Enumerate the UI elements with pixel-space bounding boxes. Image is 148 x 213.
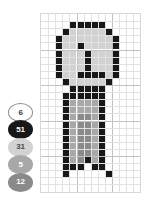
legend-color-chip[interactable]: 31 (8, 138, 33, 157)
grid-cell[interactable] (69, 121, 76, 128)
grid-cell[interactable] (91, 99, 98, 106)
grid-cell[interactable] (62, 128, 69, 135)
grid-cell[interactable] (62, 42, 69, 49)
grid-cell[interactable] (69, 142, 76, 149)
grid-cell[interactable] (62, 156, 69, 163)
grid-cell[interactable] (105, 170, 112, 177)
grid-cell[interactable] (91, 121, 98, 128)
grid-cell[interactable] (77, 50, 84, 57)
grid-cell[interactable] (84, 71, 91, 78)
grid-cell[interactable] (91, 92, 98, 99)
legend-item[interactable]: 6 (6, 103, 36, 120)
grid-cell[interactable] (91, 142, 98, 149)
grid-cell[interactable] (84, 64, 91, 71)
grid-cell[interactable] (91, 28, 98, 35)
grid-cell[interactable] (62, 163, 69, 170)
grid-cell[interactable] (77, 57, 84, 64)
grid-cell[interactable] (77, 42, 84, 49)
grid-cell[interactable] (91, 113, 98, 120)
grid-cell[interactable] (62, 35, 69, 42)
grid-cell[interactable] (69, 35, 76, 42)
grid-cell[interactable] (62, 135, 69, 142)
grid-cell[interactable] (112, 42, 119, 49)
grid-cell[interactable] (98, 163, 105, 170)
grid-cell[interactable] (84, 99, 91, 106)
grid-cell[interactable] (77, 113, 84, 120)
grid-cell[interactable] (84, 21, 91, 28)
grid-cell[interactable] (105, 28, 112, 35)
grid-cell[interactable] (69, 85, 76, 92)
pixel-grid[interactable] (40, 13, 141, 193)
grid-cell[interactable] (84, 50, 91, 57)
grid-cell[interactable] (77, 142, 84, 149)
grid-cell[interactable] (62, 50, 69, 57)
grid-cell[interactable] (112, 71, 119, 78)
grid-cell[interactable] (84, 128, 91, 135)
grid-cell[interactable] (69, 21, 76, 28)
grid-cell[interactable] (77, 21, 84, 28)
grid-cell[interactable] (77, 85, 84, 92)
legend-color-chip[interactable]: 6 (8, 103, 33, 122)
grid-cell[interactable] (98, 57, 105, 64)
grid-cell[interactable] (98, 64, 105, 71)
grid-cell[interactable] (91, 85, 98, 92)
grid-cell[interactable] (98, 71, 105, 78)
grid-cell[interactable] (84, 113, 91, 120)
grid-cell[interactable] (69, 42, 76, 49)
grid-cell[interactable] (69, 50, 76, 57)
grid-cell[interactable] (69, 156, 76, 163)
legend-color-chip[interactable]: 5 (8, 155, 33, 174)
grid-cell[interactable] (91, 128, 98, 135)
grid-cell[interactable] (69, 28, 76, 35)
grid-cell[interactable] (69, 71, 76, 78)
grid-cell[interactable] (84, 85, 91, 92)
grid-cell[interactable] (91, 42, 98, 49)
grid-cell[interactable] (98, 85, 105, 92)
grid-cell[interactable] (62, 64, 69, 71)
grid-cell[interactable] (69, 92, 76, 99)
grid-cell[interactable] (77, 135, 84, 142)
grid-cell[interactable] (77, 121, 84, 128)
grid-cell[interactable] (69, 128, 76, 135)
grid-cell[interactable] (77, 128, 84, 135)
grid-cell[interactable] (55, 50, 62, 57)
grid-cell[interactable] (84, 121, 91, 128)
grid-cell[interactable] (105, 57, 112, 64)
grid-cell[interactable] (84, 92, 91, 99)
grid-cell[interactable] (98, 149, 105, 156)
grid-cell[interactable] (62, 149, 69, 156)
grid-cell[interactable] (69, 64, 76, 71)
grid-cell[interactable] (69, 78, 76, 85)
grid-cell[interactable] (62, 92, 69, 99)
grid-cell[interactable] (77, 64, 84, 71)
grid-cell[interactable] (62, 113, 69, 120)
grid-cell[interactable] (98, 99, 105, 106)
grid-cell[interactable] (84, 35, 91, 42)
grid-cell[interactable] (84, 42, 91, 49)
grid-cell[interactable] (98, 50, 105, 57)
grid-cell[interactable] (98, 42, 105, 49)
grid-cell[interactable] (98, 142, 105, 149)
legend-item[interactable]: 12 (6, 173, 36, 190)
grid-cell[interactable] (98, 106, 105, 113)
grid-cell[interactable] (77, 78, 84, 85)
grid-cell[interactable] (98, 113, 105, 120)
grid-cell[interactable] (98, 78, 105, 85)
grid-cell[interactable] (112, 35, 119, 42)
grid-cell[interactable] (69, 57, 76, 64)
grid-cell[interactable] (105, 71, 112, 78)
grid-cell[interactable] (84, 156, 91, 163)
grid-cell[interactable] (62, 57, 69, 64)
legend-item[interactable]: 5 (6, 155, 36, 172)
grid-cell[interactable] (62, 71, 69, 78)
grid-cell[interactable] (62, 142, 69, 149)
grid-cell[interactable] (62, 106, 69, 113)
grid-cell[interactable] (91, 57, 98, 64)
grid-cell[interactable] (112, 64, 119, 71)
grid-cell[interactable] (91, 71, 98, 78)
grid-cell[interactable] (105, 78, 112, 85)
grid-cell[interactable] (69, 163, 76, 170)
grid-cell[interactable] (105, 35, 112, 42)
grid-cell[interactable] (62, 78, 69, 85)
grid-cell[interactable] (98, 156, 105, 163)
